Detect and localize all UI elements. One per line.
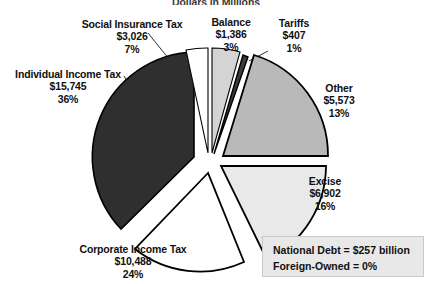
slice-label-value: $6,902: [296, 187, 354, 199]
slice-label-name: Excise: [296, 175, 354, 187]
slice-label-name: Other: [308, 82, 370, 94]
summary-info-box: National Debt = $257 billion Foreign-Own…: [262, 236, 424, 277]
slice-label-tariffs: Tariffs $407 1%: [268, 17, 320, 54]
slice-label-individual-income-tax: Individual Income Tax $15,745 36%: [4, 68, 132, 105]
foreign-owned-text: Foreign-Owned = 0%: [273, 258, 423, 274]
slice-label-excise: Excise $6,902 16%: [296, 175, 354, 212]
pie-chart-figure: Dollars in Millions Social Insurance Tax: [0, 0, 432, 284]
slice-label-corporate-income-tax: Corporate Income Tax $10,488 24%: [66, 243, 200, 280]
slice-label-value: $10,488: [66, 255, 200, 267]
slice-label-percent: 3%: [198, 41, 264, 53]
slice-label-percent: 16%: [296, 200, 354, 212]
slice-label-percent: 13%: [308, 107, 370, 119]
slice-label-name: Social Insurance Tax: [72, 18, 192, 30]
slice-label-name: Balance: [198, 16, 264, 28]
slice-label-percent: 1%: [268, 42, 320, 54]
slice-label-name: Tariffs: [268, 17, 320, 29]
national-debt-text: National Debt = $257 billion: [273, 242, 423, 258]
slice-label-value: $3,026: [72, 30, 192, 42]
slice-label-other: Other $5,573 13%: [308, 82, 370, 119]
slice-label-percent: 36%: [4, 93, 132, 105]
slice-label-name: Individual Income Tax: [4, 68, 132, 80]
slice-label-social-insurance-tax: Social Insurance Tax $3,026 7%: [72, 18, 192, 55]
slice-label-percent: 7%: [72, 43, 192, 55]
slice-label-value: $407: [268, 29, 320, 41]
slice-label-name: Corporate Income Tax: [66, 243, 200, 255]
slice-label-value: $5,573: [308, 94, 370, 106]
slice-label-value: $1,386: [198, 28, 264, 40]
slice-label-percent: 24%: [66, 268, 200, 280]
slice-label-balance: Balance $1,386 3%: [198, 16, 264, 53]
slice-label-value: $15,745: [4, 80, 132, 92]
